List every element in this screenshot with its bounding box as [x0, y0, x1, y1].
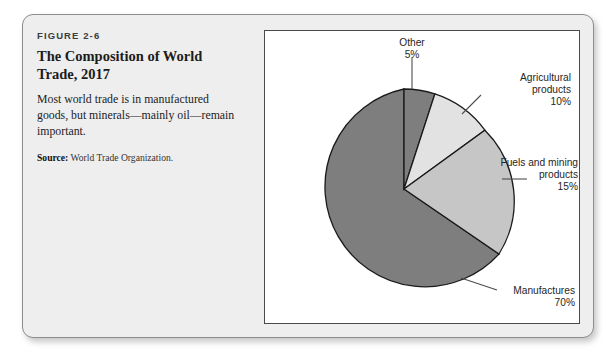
- source-text: World Trade Organization.: [68, 152, 173, 163]
- figure-source: Source: World Trade Organization.: [37, 152, 235, 164]
- pie-label-agricultural-line1: Agricultural: [520, 72, 571, 83]
- pie-label-agricultural-value: 10%: [551, 96, 571, 107]
- pie-label-fuels-value: 15%: [558, 181, 578, 192]
- figure-text-column: FIGURE 2-6 The Composition of World Trad…: [37, 30, 235, 165]
- leader-line-agricultural: [462, 95, 481, 114]
- figure-title: The Composition of World Trade, 2017: [37, 48, 235, 83]
- pie-label-fuels-line1: Fuels and mining: [500, 157, 578, 168]
- pie-chart: Other 5% Agricultural products 10% Fuels…: [265, 31, 581, 325]
- figure-description: Most world trade is in manufactured good…: [37, 92, 235, 139]
- chart-frame: Other 5% Agricultural products 10% Fuels…: [264, 30, 580, 324]
- pie-label-fuels-line2: products: [539, 169, 578, 180]
- pie-label-manufactures-value: 70%: [555, 297, 575, 308]
- figure-card: FIGURE 2-6 The Composition of World Trad…: [22, 14, 594, 338]
- source-label: Source:: [37, 152, 68, 163]
- leader-line-manufactures: [461, 278, 497, 290]
- pie-label-other-value: 5%: [405, 49, 420, 60]
- pie-label-agricultural-line2: products: [532, 84, 571, 95]
- pie-label-other-name: Other: [399, 37, 425, 48]
- figure-number: FIGURE 2-6: [37, 30, 235, 41]
- pie-label-manufactures-name: Manufactures: [513, 285, 575, 296]
